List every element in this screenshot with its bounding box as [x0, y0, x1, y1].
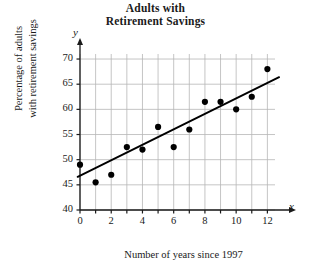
y-axis-arrow: [77, 38, 83, 45]
data-point: [249, 94, 255, 100]
scatter-plot-figure: Adults with Retirement Savings Percentag…: [0, 0, 311, 263]
y-tick-label: 40: [51, 203, 73, 214]
x-tick-label: 2: [103, 215, 119, 226]
grid-lines: [80, 54, 275, 210]
data-point: [124, 144, 130, 150]
data-point: [139, 147, 145, 153]
y-tick-label: 45: [51, 178, 73, 189]
x-tick-label: 0: [72, 215, 88, 226]
data-point: [171, 144, 177, 150]
data-point: [202, 99, 208, 105]
x-tick-label: 6: [166, 215, 182, 226]
data-point: [186, 126, 192, 132]
tick-marks: [77, 59, 268, 213]
y-tick-label: 60: [51, 102, 73, 113]
trend-line: [78, 77, 279, 177]
y-tick-label: 50: [51, 153, 73, 164]
x-tick-label: 8: [197, 215, 213, 226]
x-tick-label: 12: [259, 215, 275, 226]
x-tick-label: 4: [134, 215, 150, 226]
data-point: [264, 66, 270, 72]
data-point: [93, 179, 99, 185]
data-point: [155, 124, 161, 130]
data-point: [108, 172, 114, 178]
y-tick-label: 70: [51, 52, 73, 63]
data-point: [233, 106, 239, 112]
data-point: [217, 99, 223, 105]
x-axis-arrow: [289, 207, 296, 213]
x-tick-label: 10: [228, 215, 244, 226]
axes: [77, 38, 296, 213]
y-tick-label: 65: [51, 77, 73, 88]
data-point: [77, 162, 83, 168]
y-tick-label: 55: [51, 128, 73, 139]
